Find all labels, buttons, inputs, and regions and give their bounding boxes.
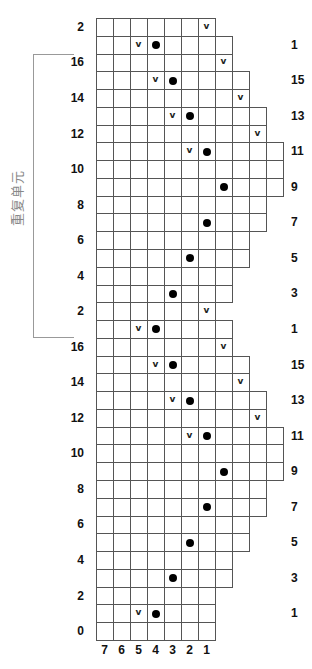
grid-cell xyxy=(215,356,233,375)
row-label: 14 xyxy=(60,376,84,388)
grid-cell xyxy=(249,160,267,179)
v-symbol: v xyxy=(198,306,215,315)
grid-cell xyxy=(113,462,131,481)
grid-cell xyxy=(215,320,233,339)
grid-cell xyxy=(130,71,148,90)
column-label: 2 xyxy=(181,644,198,656)
grid-cell xyxy=(96,249,114,268)
grid-cell xyxy=(249,480,267,499)
grid-cell xyxy=(130,480,148,499)
grid-cell xyxy=(198,391,216,410)
v-symbol: v xyxy=(147,75,164,84)
grid-cell xyxy=(181,480,199,499)
row-label: 14 xyxy=(60,92,84,104)
grid-cell xyxy=(96,89,114,108)
grid-cell xyxy=(147,480,165,499)
row-label: 15 xyxy=(291,74,311,86)
grid-cell xyxy=(113,427,131,446)
grid-cell xyxy=(96,142,114,161)
grid-cell xyxy=(164,551,182,570)
grid-cell xyxy=(147,213,165,232)
grid-cell xyxy=(96,107,114,126)
grid-cell xyxy=(113,391,131,410)
v-symbol: v xyxy=(164,395,181,404)
grid-cell xyxy=(96,160,114,179)
grid-cell xyxy=(249,142,267,161)
row-label: 10 xyxy=(60,447,84,459)
row-label: 6 xyxy=(60,234,84,246)
grid-cell xyxy=(215,409,233,428)
dot-symbol xyxy=(186,112,194,120)
grid-cell xyxy=(232,356,250,375)
grid-cell xyxy=(96,498,114,517)
grid-cell xyxy=(113,142,131,161)
grid-cell xyxy=(181,338,199,357)
grid-cell xyxy=(249,462,267,481)
row-label: 2 xyxy=(60,590,84,602)
grid-cell xyxy=(215,249,233,268)
grid-cell xyxy=(113,320,131,339)
grid-cell xyxy=(232,462,250,481)
v-symbol: v xyxy=(130,324,147,333)
grid-cell xyxy=(96,196,114,215)
column-label: 3 xyxy=(164,644,181,656)
grid-cell xyxy=(164,36,182,55)
v-symbol: v xyxy=(130,608,147,617)
grid-cell xyxy=(147,391,165,410)
grid-cell xyxy=(130,178,148,197)
grid-cell xyxy=(164,533,182,552)
dot-symbol xyxy=(220,468,228,476)
grid-cell xyxy=(164,498,182,517)
grid-cell xyxy=(96,213,114,232)
grid-cell xyxy=(215,36,233,55)
grid-cell xyxy=(249,444,267,463)
grid-cell xyxy=(198,196,216,215)
grid-cell xyxy=(232,516,250,535)
grid-cell xyxy=(96,36,114,55)
grid-cell xyxy=(164,427,182,446)
row-label: 1 xyxy=(291,323,311,335)
grid-cell xyxy=(232,533,250,552)
grid-cell xyxy=(96,462,114,481)
grid-cell xyxy=(181,569,199,588)
grid-cell xyxy=(96,178,114,197)
grid-cell xyxy=(113,480,131,499)
grid-cell xyxy=(266,427,284,446)
row-label: 16 xyxy=(60,341,84,353)
grid-cell xyxy=(147,551,165,570)
grid-cell xyxy=(130,409,148,428)
grid-cell xyxy=(130,498,148,517)
grid-cell xyxy=(181,71,199,90)
row-label: 2 xyxy=(60,21,84,33)
grid-cell xyxy=(96,622,114,641)
grid-cell xyxy=(113,285,131,304)
grid-cell xyxy=(249,178,267,197)
grid-cell xyxy=(164,480,182,499)
grid-cell xyxy=(266,444,284,463)
grid-cell xyxy=(147,267,165,286)
grid-cell xyxy=(130,427,148,446)
grid-cell xyxy=(147,516,165,535)
grid-cell xyxy=(249,427,267,446)
grid-cell xyxy=(96,54,114,73)
grid-cell xyxy=(164,142,182,161)
grid-cell xyxy=(198,36,216,55)
grid-cell xyxy=(232,409,250,428)
grid-cell xyxy=(232,125,250,144)
row-label: 15 xyxy=(291,359,311,371)
grid-cell xyxy=(232,142,250,161)
grid-cell xyxy=(130,54,148,73)
grid-cell xyxy=(147,285,165,304)
grid-cell xyxy=(147,249,165,268)
grid-cell xyxy=(181,498,199,517)
dot-symbol xyxy=(152,41,160,49)
grid-cell xyxy=(147,231,165,250)
grid-cell xyxy=(164,231,182,250)
grid-cell xyxy=(198,338,216,357)
grid-cell xyxy=(249,498,267,517)
grid-cell xyxy=(130,285,148,304)
grid-cell xyxy=(130,249,148,268)
grid-cell xyxy=(113,622,131,641)
v-symbol: v xyxy=(181,431,198,440)
grid-cell xyxy=(215,196,233,215)
